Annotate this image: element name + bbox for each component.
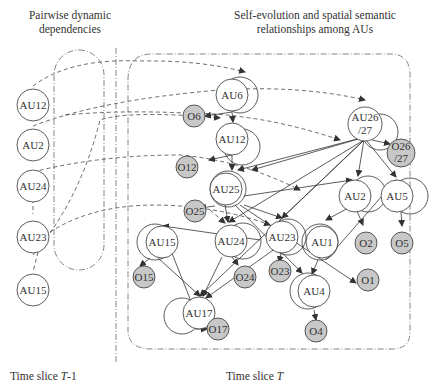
edge-au6-au12 (232, 112, 233, 122)
left-node-au2-label: AU2 (22, 139, 43, 151)
obs-node-o4[interactable]: O4 (305, 320, 327, 342)
edge-au15-au17 (158, 258, 200, 296)
node-au6-label: AU6 (221, 89, 243, 101)
left-node-au12-label: AU12 (20, 99, 47, 111)
obs-node-o12-label: O12 (178, 161, 197, 173)
obs-node-o17-label: O17 (209, 323, 228, 335)
edge-au25-au24 (225, 205, 228, 222)
obs-node-o26-27[interactable]: O26 /27 (387, 139, 415, 167)
node-au12[interactable]: AU12 (216, 123, 248, 155)
temporal-edge-au24 (33, 155, 300, 190)
node-au15[interactable]: AU15 (146, 226, 178, 258)
node-au2[interactable]: AU2 (339, 180, 371, 212)
node-au12-label: AU12 (219, 133, 246, 145)
node-au1[interactable]: AU1 (306, 226, 338, 258)
node-au5-label: AU5 (386, 190, 408, 202)
obs-node-o24-label: O24 (236, 271, 255, 283)
node-au5[interactable]: AU5 (381, 180, 413, 212)
node-au25-label: AU25 (213, 183, 240, 195)
node-au26-label: AU26 (352, 111, 379, 123)
left-node-au24[interactable]: AU24 (17, 170, 49, 202)
obs-node-o25[interactable]: O25 (184, 200, 206, 222)
left-node-au23[interactable]: AU23 (17, 221, 49, 253)
left-node-au15[interactable]: AU15 (17, 274, 49, 306)
obs-node-o2[interactable]: O2 (355, 232, 377, 254)
obs-node-o5[interactable]: O5 (391, 232, 413, 254)
node-au24[interactable]: AU24 (215, 225, 247, 257)
temporal-edge-au12 (33, 61, 245, 86)
temporal-edge-au12b (33, 114, 220, 255)
node-au24-label: AU24 (218, 235, 245, 247)
left-node-au12[interactable]: AU12 (17, 89, 49, 121)
dbn-diagram: AU12 AU2 AU24 AU23 AU15 AU6 AU12 (0, 0, 442, 390)
left-time-suffix: -1 (67, 370, 77, 382)
obs-node-o4-label: O4 (309, 325, 323, 337)
left-slice-nodes: AU12 AU2 AU24 AU23 AU15 (17, 89, 49, 306)
obs-node-o26-label2: /27 (394, 152, 409, 164)
obs-node-o15-label: O15 (135, 271, 154, 283)
node-au23-label: AU23 (269, 231, 296, 243)
obs-node-o23-label: O23 (271, 265, 290, 277)
obs-node-o6-label: O6 (187, 110, 201, 122)
node-au2-label: AU2 (344, 190, 365, 202)
obs-node-o24[interactable]: O24 (234, 266, 256, 288)
obs-node-o12[interactable]: O12 (176, 156, 198, 178)
right-time-slice-label: Time slice T (226, 370, 283, 382)
edge-au26-au25 (238, 137, 365, 170)
right-time-prefix: Time slice (226, 370, 277, 382)
left-node-au23-label: AU23 (20, 231, 47, 243)
left-chain-2 (33, 252, 38, 272)
right-time-var: T (277, 370, 283, 382)
obs-node-o1-label: O1 (361, 274, 374, 286)
obs-node-o25-label: O25 (186, 205, 205, 217)
obs-node-o2-label: O2 (359, 237, 372, 249)
node-au4-label: AU4 (303, 285, 325, 297)
node-au26-27[interactable]: AU26 /27 (348, 107, 382, 141)
node-au4[interactable]: AU4 (298, 275, 330, 307)
edge-au1-au4 (312, 260, 318, 274)
edge-au5-o5 (401, 212, 402, 226)
obs-node-o5-label: O5 (395, 237, 409, 249)
left-time-slice-label: Time slice T-1 (10, 370, 77, 382)
edge-au25-au2 (244, 180, 352, 196)
obs-node-o6[interactable]: O6 (183, 105, 205, 127)
node-au25[interactable]: AU25 (210, 173, 242, 205)
edge-au26-o26 (372, 140, 390, 144)
obs-node-o1[interactable]: O1 (357, 269, 379, 291)
obs-node-o26-label: O26 (392, 140, 411, 152)
obs-node-o23[interactable]: O23 (269, 260, 291, 282)
node-au15-label: AU15 (149, 236, 176, 248)
node-au1-label: AU1 (311, 236, 332, 248)
obs-node-o17[interactable]: O17 (207, 318, 229, 340)
left-node-au15-label: AU15 (20, 284, 47, 296)
edge-au26-au12 (252, 137, 365, 170)
edge-au15-o15 (140, 258, 150, 266)
node-au23[interactable]: AU23 (266, 221, 298, 253)
left-node-au24-label: AU24 (20, 180, 47, 192)
obs-node-o15[interactable]: O15 (133, 266, 155, 288)
edge-au2-o2 (357, 211, 363, 225)
node-au26-label2: /27 (358, 124, 373, 136)
node-au17-label: AU17 (186, 307, 213, 319)
node-au6[interactable]: AU6 (216, 79, 248, 111)
edge-au24-au17 (203, 257, 222, 296)
edge-au25-o1 (240, 205, 356, 283)
left-node-au2[interactable]: AU2 (17, 129, 49, 161)
edge-au4-o4 (314, 310, 316, 320)
left-time-prefix: Time slice (10, 370, 61, 382)
